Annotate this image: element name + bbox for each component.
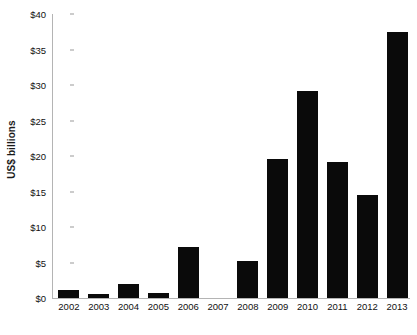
- bar-2013: [387, 32, 408, 298]
- x-axis-tick-label: 2013: [387, 301, 408, 312]
- y-axis-line: [52, 14, 53, 299]
- bar-2006: [178, 247, 199, 298]
- bar-2004: [118, 284, 139, 298]
- bar-chart: US$ billions $0$5$10$15$20$25$30$35$40 2…: [0, 0, 417, 335]
- y-axis-title-label: US$ billions: [6, 120, 17, 178]
- x-axis-tick-label: 2004: [118, 301, 139, 312]
- bar-2008: [237, 261, 258, 298]
- x-axis-tick-label: 2008: [237, 301, 258, 312]
- x-axis-line: [52, 298, 410, 299]
- x-axis-tick-label: 2009: [267, 301, 288, 312]
- bar-2010: [297, 91, 318, 298]
- y-axis-tick-label: $40: [30, 9, 46, 20]
- bar-2011: [327, 162, 348, 298]
- bar-2009: [267, 159, 288, 298]
- plot-area: [52, 14, 410, 298]
- y-axis-tick-label: $20: [30, 151, 46, 162]
- y-axis-tick-label: $5: [35, 257, 46, 268]
- y-axis-tick-label: $15: [30, 186, 46, 197]
- y-axis-tick-label: $0: [35, 293, 46, 304]
- x-axis-tick-label: 2010: [297, 301, 318, 312]
- y-axis-tick-label: $30: [30, 80, 46, 91]
- x-axis-tick-label: 2003: [88, 301, 109, 312]
- bar-2005: [148, 293, 169, 298]
- x-axis-tick-label: 2006: [178, 301, 199, 312]
- bar-2012: [357, 195, 378, 298]
- x-axis-tick-label: 2007: [208, 301, 229, 312]
- y-axis-tick-label: $35: [30, 44, 46, 55]
- x-axis-tick-label: 2005: [148, 301, 169, 312]
- bar-2003: [88, 294, 109, 298]
- y-axis-title: US$ billions: [0, 0, 22, 298]
- bar-2002: [58, 290, 79, 298]
- x-axis-tick-label: 2002: [58, 301, 79, 312]
- x-axis-ticks: 2002200320042005200620072008200920102011…: [52, 301, 410, 321]
- y-axis-tick-label: $10: [30, 222, 46, 233]
- x-axis-tick-label: 2012: [357, 301, 378, 312]
- x-axis-tick-label: 2011: [327, 301, 347, 312]
- y-axis-ticks: $0$5$10$15$20$25$30$35$40: [22, 0, 52, 335]
- y-axis-tick-label: $25: [30, 115, 46, 126]
